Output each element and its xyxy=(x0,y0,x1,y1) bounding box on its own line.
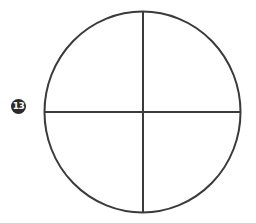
figure-number-badge: 13 xyxy=(11,99,26,114)
quartered-circle-diagram xyxy=(0,0,256,223)
